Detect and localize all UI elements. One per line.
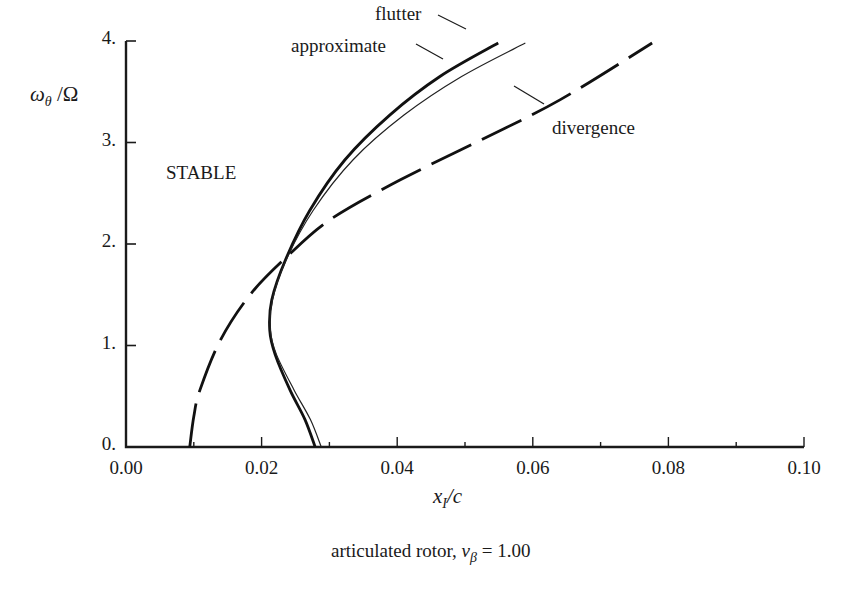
approximate-curve (270, 43, 525, 447)
y-tick-label: 0. (76, 433, 116, 455)
y-tick-label: 2. (76, 230, 116, 252)
axis-lines (126, 41, 804, 447)
chart-caption: articulated rotor, νβ = 1.00 (331, 540, 531, 566)
annotation-leaders (416, 15, 544, 104)
y-tick-label: 1. (76, 332, 116, 354)
x-tick-label: 0.00 (96, 457, 156, 479)
x-tick-label: 0.08 (638, 457, 698, 479)
curves (190, 43, 652, 447)
flutter-leader (438, 15, 466, 29)
divergence-annotation: divergence (552, 117, 635, 139)
flutter-annotation: flutter (375, 3, 421, 25)
x-tick-label: 0.02 (232, 457, 292, 479)
chart-plot-area (0, 0, 860, 596)
approximate-leader (416, 44, 443, 59)
x-tick-label: 0.06 (503, 457, 563, 479)
axes (126, 41, 804, 447)
x-axis-label: xI/c (433, 484, 462, 512)
stable-region-label: STABLE (166, 162, 236, 184)
y-tick-label: 4. (76, 27, 116, 49)
x-tick-label: 0.10 (774, 457, 834, 479)
flutter-curve (269, 43, 498, 447)
y-tick-label: 3. (76, 129, 116, 151)
y-axis-label: ωθ /Ω (30, 82, 78, 110)
divergence-leader (514, 86, 544, 104)
approximate-annotation: approximate (291, 35, 386, 57)
x-tick-label: 0.04 (367, 457, 427, 479)
divergence-curve (190, 43, 652, 447)
